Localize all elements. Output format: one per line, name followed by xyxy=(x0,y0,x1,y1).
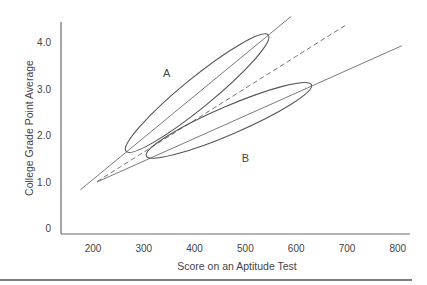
y-tick-label: 1.0 xyxy=(37,177,51,188)
x-tick-label: 500 xyxy=(237,243,254,254)
group-label: B xyxy=(242,152,249,164)
y-tick-labels: 01.02.03.04.0 xyxy=(37,37,51,234)
regression-line xyxy=(97,24,347,181)
y-tick-label: 2.0 xyxy=(37,130,51,141)
y-axis-title: College Grade Point Average xyxy=(23,60,35,196)
x-tick-label: 400 xyxy=(186,243,203,254)
regression-line xyxy=(80,16,291,189)
x-tick-label: 600 xyxy=(288,243,305,254)
y-tick-label: 0 xyxy=(45,223,51,234)
x-tick-label: 800 xyxy=(389,243,406,254)
group-ellipses xyxy=(117,24,317,169)
group-ellipse xyxy=(141,72,317,169)
group-label: A xyxy=(163,67,171,79)
x-tick-labels: 200300400500600700800 xyxy=(85,243,407,254)
x-tick-label: 300 xyxy=(135,243,152,254)
y-tick-label: 4.0 xyxy=(37,37,51,48)
axes xyxy=(61,22,410,234)
x-tick-label: 200 xyxy=(85,243,102,254)
regression-line xyxy=(97,46,402,182)
x-axis-title: Score on an Aptitude Test xyxy=(177,260,297,272)
y-tick-label: 3.0 xyxy=(37,84,51,95)
chart: 200300400500600700800 01.02.03.04.0 AB C… xyxy=(0,0,427,285)
x-tick-label: 700 xyxy=(339,243,356,254)
